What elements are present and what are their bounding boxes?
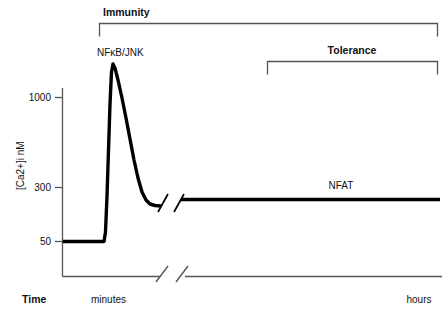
y-tick-label-1000: 1000	[29, 92, 52, 103]
y-tick-label-300: 300	[34, 182, 51, 193]
x-tick-label-minutes: minutes	[91, 294, 126, 305]
x-axis-title: Time	[22, 293, 46, 305]
tolerance-label: Tolerance	[328, 44, 377, 56]
x-tick-label-hours: hours	[406, 294, 431, 305]
figure-canvas: Immunity Tolerance 1000 300 50 [Ca2+]i n…	[0, 0, 447, 328]
figure-background	[0, 0, 447, 328]
nfkb-jnk-label: NFκB/JNK	[97, 47, 144, 58]
y-axis-title: [Ca2+]i nM	[15, 141, 26, 190]
y-tick-label-50: 50	[40, 236, 52, 247]
calcium-signalling-figure: Immunity Tolerance 1000 300 50 [Ca2+]i n…	[0, 0, 447, 328]
nfat-label: NFAT	[329, 180, 354, 191]
immunity-label: Immunity	[103, 6, 150, 18]
